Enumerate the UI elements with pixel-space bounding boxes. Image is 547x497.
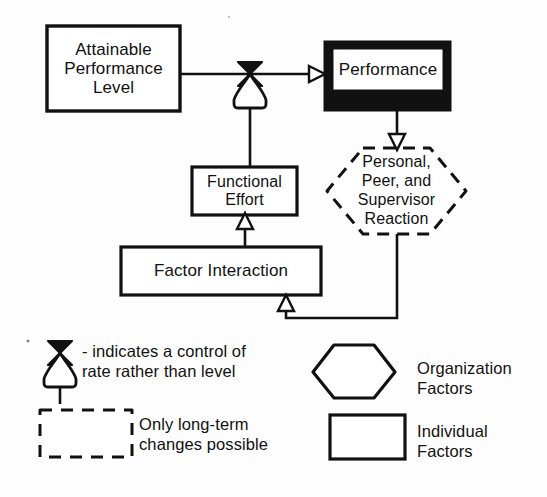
legend-hexagon-note: Organization Factors — [417, 358, 547, 398]
node-functional-effort-shape[interactable] — [192, 167, 297, 215]
node-performance-inner-box — [334, 50, 442, 89]
rate-control-valve-bell — [234, 74, 266, 108]
arrowhead-into-performance — [309, 66, 325, 82]
scan-speck-artifact — [228, 16, 230, 18]
legend-dashed-rectangle-icon — [40, 410, 132, 457]
scan-speck-artifact — [26, 339, 29, 342]
legend-valve-note: - indicates a control of rate rather tha… — [82, 341, 292, 381]
legend-hexagon-icon — [313, 345, 395, 398]
node-factor-interaction-shape[interactable] — [121, 247, 321, 295]
legend-dashed-note: Only long-term changes possible — [139, 414, 309, 454]
legend-valve-bell-icon — [44, 353, 76, 387]
legend-rectangle-icon — [330, 415, 405, 459]
node-reaction-shape[interactable] — [327, 148, 466, 234]
node-attainable-performance-level-shape[interactable] — [47, 26, 180, 111]
legend-rectangle-note: Individual Factors — [417, 421, 547, 461]
diagram-canvas: Attainable Performance Level Performance… — [0, 0, 547, 497]
arrowhead-into-factor-interaction — [278, 295, 294, 311]
